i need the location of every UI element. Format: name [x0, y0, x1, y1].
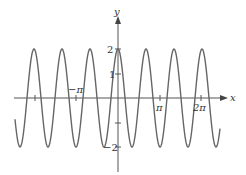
y-axis-label: y	[113, 6, 120, 17]
y-tick-label-1: 1	[109, 69, 115, 80]
chart: x y −π π 2π 2 1 −2	[0, 0, 246, 175]
x-tick-label-pi: π	[155, 102, 163, 113]
x-axis-label: x	[230, 92, 236, 103]
x-tick-label-2pi: 2π	[192, 102, 206, 113]
x-tick-label-neg-pi: −π	[68, 84, 83, 95]
x-axis-arrow-icon	[220, 95, 228, 101]
y-tick-label-neg2: −2	[103, 142, 118, 153]
y-tick-label-2: 2	[107, 44, 113, 55]
y-axis-arrow-icon	[115, 16, 121, 24]
